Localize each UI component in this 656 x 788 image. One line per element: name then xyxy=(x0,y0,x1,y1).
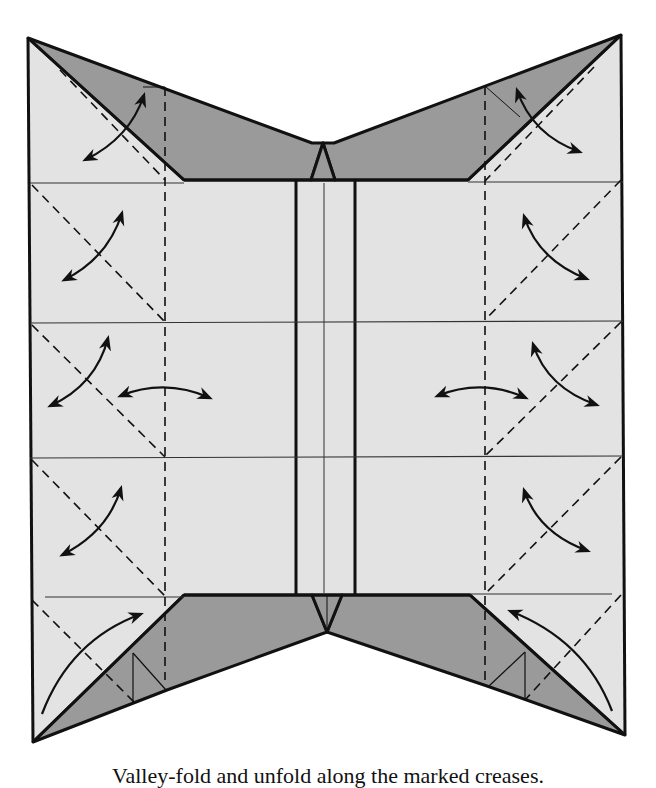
diagram-caption: Valley-fold and unfold along the marked … xyxy=(0,764,656,788)
paper-body xyxy=(28,35,625,742)
